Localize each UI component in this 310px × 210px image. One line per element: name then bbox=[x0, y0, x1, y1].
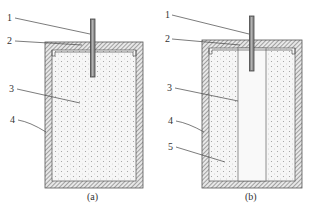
callout-5-b: 5 bbox=[168, 141, 173, 152]
caption-b: (b) bbox=[245, 191, 257, 203]
leader-4-b bbox=[176, 121, 204, 132]
caption-a: (a) bbox=[87, 191, 98, 203]
callout-2-b: 2 bbox=[165, 33, 170, 44]
callout-2-a: 2 bbox=[7, 35, 12, 46]
callout-3-b: 3 bbox=[167, 82, 172, 93]
panel-a: 1 2 3 4 (a) bbox=[7, 12, 143, 203]
callout-1-a: 1 bbox=[7, 12, 12, 23]
leader-1-b bbox=[172, 15, 249, 34]
diagram-canvas: 1 2 3 4 (a) 1 2 3 4 5 (b) bbox=[0, 0, 310, 210]
callout-3-a: 3 bbox=[9, 83, 14, 94]
callout-4-a: 4 bbox=[10, 114, 15, 125]
callout-1-b: 1 bbox=[165, 9, 170, 20]
leader-1-a bbox=[15, 18, 90, 34]
panel-b: 1 2 3 4 5 (b) bbox=[165, 9, 302, 203]
leader-4-a bbox=[18, 120, 46, 132]
callout-4-b: 4 bbox=[168, 115, 173, 126]
